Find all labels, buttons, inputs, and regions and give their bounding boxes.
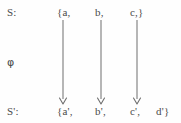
mapping-arrows xyxy=(60,20,141,104)
arrow-layer xyxy=(0,0,181,123)
set-mapping-diagram: S: φ S': {a, b, c,} {a', b', c', d'} xyxy=(0,0,181,123)
